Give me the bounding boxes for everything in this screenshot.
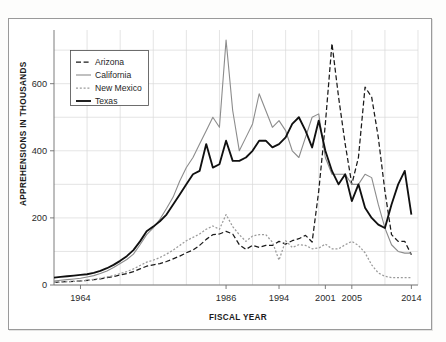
y-tick-label: 400: [32, 146, 47, 156]
y-tick-label: 600: [32, 79, 47, 89]
x-tick-label: 1994: [269, 293, 289, 303]
x-tick-label: 2001: [315, 293, 335, 303]
series-line-new-mexico: [54, 215, 411, 283]
legend-label-arizona: Arizona: [95, 57, 124, 67]
x-axis-title: FISCAL YEAR: [209, 313, 267, 322]
x-tick-label: 2005: [342, 293, 362, 303]
line-chart: 0200400600 196419861994200120052014 APPR…: [0, 0, 446, 342]
series-line-texas: [54, 117, 411, 277]
legend: ArizonaCaliforniaNew MexicoTexas: [71, 51, 149, 107]
y-axis-tick-labels: 0200400600: [32, 79, 47, 290]
legend-label-new-mexico: New Mexico: [95, 83, 142, 93]
y-tick-label: 200: [32, 213, 47, 223]
x-tick-label: 1986: [216, 293, 236, 303]
legend-label-california: California: [95, 70, 132, 80]
legend-label-texas: Texas: [95, 96, 117, 106]
x-axis-tick-labels: 196419861994200120052014: [70, 293, 421, 303]
y-tick-label: 0: [42, 280, 47, 290]
x-tick-label: 2014: [401, 293, 421, 303]
y-axis-title: APPREHENSIONS IN THOUSANDS: [19, 61, 28, 206]
figure-canvas: 0200400600 196419861994200120052014 APPR…: [0, 0, 446, 342]
x-tick-label: 1964: [70, 293, 90, 303]
